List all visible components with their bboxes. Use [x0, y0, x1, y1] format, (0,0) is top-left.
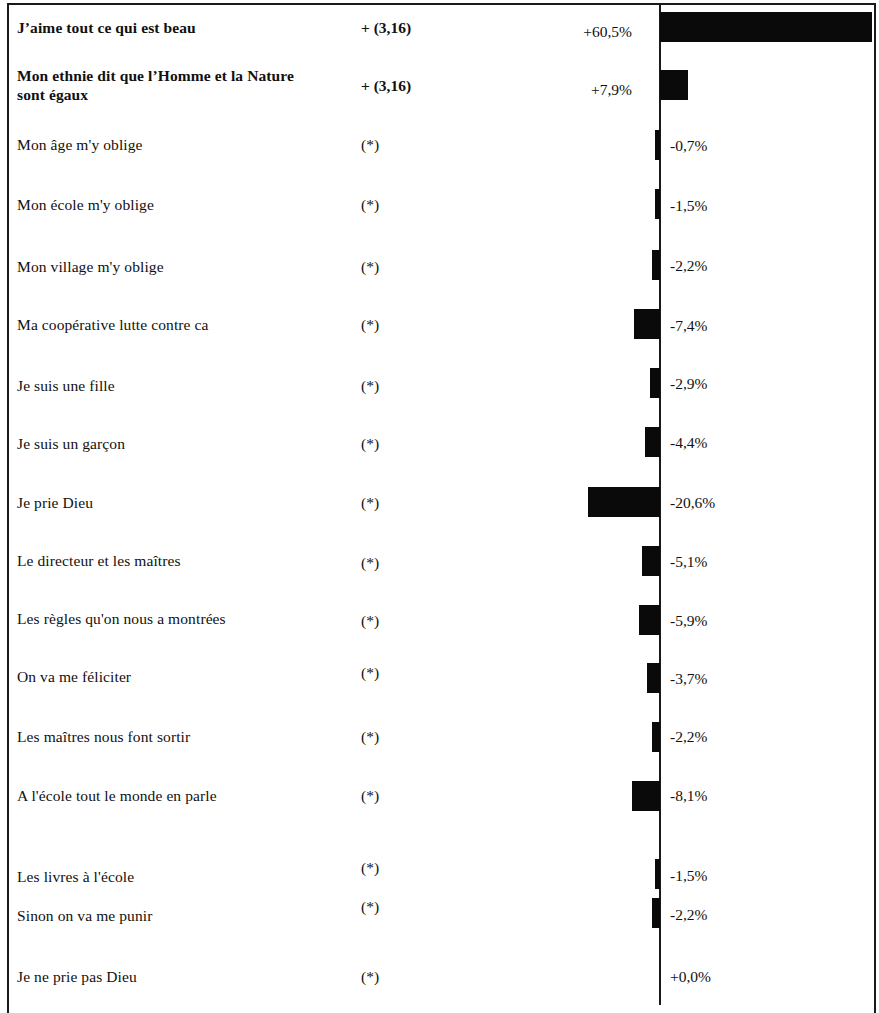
row-label: Mon école m'y oblige [17, 195, 347, 214]
bar [655, 130, 660, 160]
bar-value-label: -7,4% [670, 316, 707, 335]
value-label: +7,9% [470, 80, 632, 99]
row-label: Le directeur et les maîtres [17, 551, 347, 570]
significance-marker: (*) [361, 553, 511, 572]
bar-value-label: -0,7% [670, 136, 707, 155]
bar [639, 605, 660, 635]
significance-marker: (*) [361, 786, 511, 805]
row-label: Mon âge m'y oblige [17, 135, 347, 154]
significance-marker: (*) [361, 376, 511, 395]
bar-value-label: -1,5% [670, 866, 707, 885]
row-label: Les livres à l'école [17, 867, 347, 886]
bar [650, 368, 660, 398]
row-label: Je suis une fille [17, 376, 347, 395]
row-label: Les règles qu'on nous a montrées [17, 609, 347, 628]
significance-marker: (*) [361, 434, 511, 453]
bar [655, 859, 660, 889]
bar-value-label: -5,9% [670, 611, 707, 630]
row-label: Sinon on va me punir [17, 906, 347, 925]
bar [588, 487, 660, 517]
significance-marker: (*) [361, 727, 511, 746]
significance-marker: (*) [361, 195, 511, 214]
bar-value-label: -3,7% [670, 669, 707, 688]
significance-marker: (*) [361, 315, 511, 334]
significance-marker: (*) [361, 135, 511, 154]
bar [642, 546, 660, 576]
significance-marker: (*) [361, 493, 511, 512]
bar-value-label: -2,2% [670, 256, 707, 275]
bar-value-label: -2,9% [670, 374, 707, 393]
significance-marker: (*) [361, 663, 511, 682]
bar [660, 12, 872, 42]
row-label: On va me féliciter [17, 667, 347, 686]
significance-marker: (*) [361, 257, 511, 276]
bar [652, 898, 660, 928]
bar [652, 722, 660, 752]
significance-marker: (*) [361, 967, 511, 986]
row-label: Je prie Dieu [17, 493, 347, 512]
row-label: J’aime tout ce qui est beau [17, 18, 347, 37]
bar [632, 781, 660, 811]
value-label: +60,5% [470, 22, 632, 41]
row-label: Je suis un garçon [17, 434, 347, 453]
bar-value-label: -20,6% [670, 493, 715, 512]
bar [645, 427, 660, 457]
bar-value-label: -8,1% [670, 786, 707, 805]
row-label: Mon ethnie dit que l’Homme et la Nature [17, 66, 347, 85]
bar-value-label: -1,5% [670, 196, 707, 215]
significance-marker: (*) [361, 611, 511, 630]
bar [660, 70, 688, 100]
row-label: Les maîtres nous font sortir [17, 727, 347, 746]
row-label: A l'école tout le monde en parle [17, 786, 347, 805]
bar-value-label: -5,1% [670, 552, 707, 571]
significance-marker: (*) [361, 897, 511, 916]
significance-marker: (*) [361, 858, 511, 877]
bar-value-label: +0,0% [670, 967, 711, 986]
bar [652, 250, 660, 280]
bar-value-label: -2,2% [670, 905, 707, 924]
row-label: Ma coopérative lutte contre ca [17, 315, 347, 334]
bar-value-label: -2,2% [670, 727, 707, 746]
bar-value-label: -4,4% [670, 433, 707, 452]
row-label: Mon village m'y oblige [17, 257, 347, 276]
bar [647, 663, 660, 693]
bar [634, 309, 660, 339]
row-label-line2: sont égaux [17, 85, 347, 104]
bar [655, 189, 660, 219]
row-label: Je ne prie pas Dieu [17, 967, 347, 986]
